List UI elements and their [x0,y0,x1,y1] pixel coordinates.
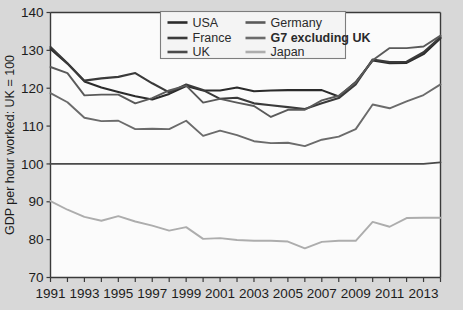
legend-label-usa: USA [193,16,219,30]
x-tick-label: 1993 [69,286,99,301]
x-tick-label: 2011 [375,286,404,301]
y-tick-label: 130 [21,43,44,58]
legend-label-germany: Germany [271,16,323,30]
legend-label-g7-excluding-uk: G7 excluding UK [271,31,371,45]
x-tick-label: 2007 [307,286,337,301]
gdp-per-hour-worked-line-chart: 708090100110120130140 199119931995199719… [0,0,463,310]
legend-label-uk: UK [193,45,211,59]
y-tick-label: 100 [21,157,44,172]
x-tick-label: 2013 [409,286,439,301]
x-tick-label: 1995 [103,286,133,301]
chart-canvas: 708090100110120130140 199119931995199719… [0,0,463,310]
x-tick-label: 2005 [273,286,303,301]
y-tick-label: 80 [28,232,43,247]
x-tick-label: 2001 [205,286,235,301]
x-tick-label: 1991 [35,286,65,301]
x-tick-label: 2003 [239,286,269,301]
y-axis: 708090100110120130140 [21,5,51,285]
y-tick-label: 110 [22,119,44,134]
y-tick-label: 140 [21,5,44,20]
legend-label-japan: Japan [271,45,305,59]
x-tick-label: 1999 [171,286,201,301]
y-tick-label: 120 [21,81,44,96]
legend-label-france: France [193,31,232,45]
y-tick-label: 70 [28,270,43,285]
chart-legend: USAGermanyFranceG7 excluding UKUKJapan [161,12,371,60]
y-axis-title: GDP per hour worked: UK = 100 [3,55,17,235]
y-tick-label: 90 [28,194,43,209]
x-tick-label: 2009 [341,286,371,301]
x-tick-label: 1997 [137,286,167,301]
y-axis-title-text: GDP per hour worked: UK = 100 [3,55,17,235]
